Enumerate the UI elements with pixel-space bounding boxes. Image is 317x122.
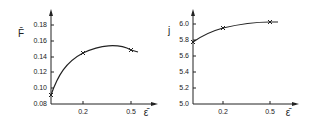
chart-j-vs-epsilon: [191, 9, 299, 106]
x-axis-arrow-icon: [151, 102, 158, 106]
ytick: 5.6: [179, 52, 189, 59]
ytick: 0.18: [33, 21, 47, 28]
x-axis-label: ε̄: [144, 107, 150, 118]
xtick: 0.5: [126, 108, 136, 115]
right-labels: 6.0 5.8 5.6 5.4 5.2 5.0 0.2 0.5 j ε̄: [167, 20, 292, 118]
ytick: 6.0: [179, 20, 189, 27]
ytick: 5.2: [179, 84, 189, 91]
ytick: 0.16: [33, 37, 47, 44]
figure: 0.18 0.16 0.14 0.12 0.10 0.08 0.2 0.5 F̄…: [0, 0, 317, 122]
x-axis-label: ε̄: [286, 107, 292, 118]
xtick: 0.2: [78, 108, 88, 115]
x-axis-arrow-icon: [292, 102, 299, 106]
data-line: [193, 22, 278, 42]
chart-f-vs-epsilon: [49, 9, 158, 106]
y-axis-label: F̄: [18, 27, 24, 39]
xtick: 0.5: [265, 108, 275, 115]
ytick: 5.4: [179, 68, 189, 75]
ytick: 0.08: [33, 100, 47, 107]
ytick: 0.10: [33, 84, 47, 91]
xtick: 0.2: [218, 108, 228, 115]
ytick: 5.0: [179, 100, 189, 107]
data-line: [51, 46, 138, 95]
ytick: 0.14: [33, 53, 47, 60]
data-markers: [191, 20, 272, 44]
left-labels: 0.18 0.16 0.14 0.12 0.10 0.08 0.2 0.5 F̄…: [18, 21, 150, 118]
y-axis-arrow-icon: [49, 9, 53, 16]
ytick: 0.12: [33, 68, 47, 75]
y-axis-arrow-icon: [191, 9, 195, 16]
y-axis-label: j: [167, 25, 170, 36]
ytick: 5.8: [179, 36, 189, 43]
